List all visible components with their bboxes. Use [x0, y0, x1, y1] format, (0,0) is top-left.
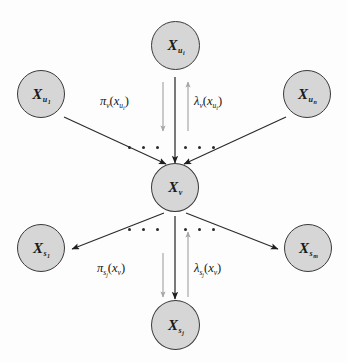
message-label-pi-child: πsj(xv)	[97, 262, 125, 275]
node-parent-first[interactable]: Xu1	[17, 70, 65, 118]
node-child-j-label: Xsj	[168, 318, 183, 333]
ellipsis-upper-right	[184, 146, 215, 149]
node-parent-last-label: Xun	[298, 87, 316, 102]
edge-center-to-child-last	[186, 213, 278, 249]
ellipsis-lower-right	[184, 228, 215, 231]
message-label-lambda-parent: λv(xui)	[194, 95, 222, 108]
node-parent-first-label: Xu1	[32, 87, 49, 102]
ellipsis-lower-left	[128, 228, 159, 231]
node-center[interactable]: Xv	[151, 163, 199, 212]
node-center-label: Xv	[168, 180, 182, 195]
edge-center-to-child-first	[72, 213, 164, 249]
node-parent-last[interactable]: Xun	[283, 70, 331, 118]
node-child-first[interactable]: Xs1	[17, 224, 65, 272]
node-child-j[interactable]: Xsj	[151, 300, 200, 350]
node-parent-i[interactable]: Xui	[151, 21, 200, 70]
message-label-lambda-child: λsj(xv)	[194, 262, 221, 275]
edge-parent-first-to-center	[64, 117, 166, 164]
node-parent-i-label: Xui	[167, 38, 183, 53]
edge-parent-last-to-center	[184, 117, 286, 164]
node-child-first-label: Xs1	[33, 241, 49, 256]
node-child-last[interactable]: Xsm	[284, 224, 332, 272]
ellipsis-upper-left	[128, 146, 159, 149]
message-label-pi-parent: πv(xui)	[100, 95, 129, 108]
node-child-last-label: Xsm	[299, 241, 317, 256]
belief-propagation-figure: Xui Xu1 Xun Xv Xs1 Xsm Xsj πv(xui)	[0, 0, 347, 363]
